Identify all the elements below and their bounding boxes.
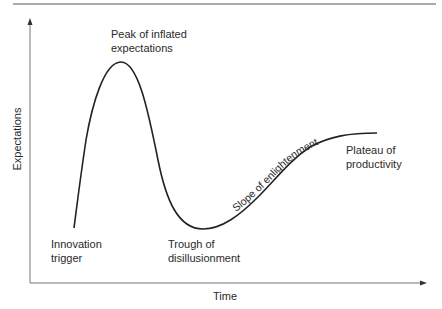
peak-label: Peak of inflated expectations xyxy=(111,27,187,55)
y-axis-label: Expectations xyxy=(11,108,23,171)
hype-cycle-diagram: Slope of enlightenment Peak of inflated … xyxy=(0,0,442,309)
plateau-label-line2: productivity xyxy=(346,157,402,171)
x-axis-label: Time xyxy=(213,290,237,302)
hype-curve xyxy=(74,62,377,229)
innovation-label: Innovation trigger xyxy=(51,237,102,265)
slope-label: Slope of enlightenment xyxy=(230,135,320,213)
plateau-label: Plateau of productivity xyxy=(346,143,402,171)
trough-label-line2: disillusionment xyxy=(168,251,240,265)
plateau-label-line1: Plateau of xyxy=(346,143,402,157)
y-axis-arrow-icon xyxy=(28,18,33,25)
x-axis-arrow-icon xyxy=(420,281,427,286)
peak-label-line1: Peak of inflated xyxy=(111,27,187,41)
innovation-label-line1: Innovation xyxy=(51,237,102,251)
innovation-label-line2: trigger xyxy=(51,251,102,265)
peak-label-line2: expectations xyxy=(111,41,187,55)
trough-label-line1: Trough of xyxy=(168,237,240,251)
trough-label: Trough of disillusionment xyxy=(168,237,240,265)
